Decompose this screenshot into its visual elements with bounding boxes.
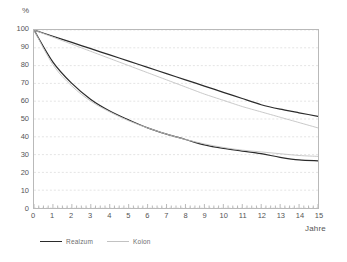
y-tick-label: 40 [7, 133, 29, 141]
x-tick-label: 9 [197, 212, 213, 220]
y-tick-label: 90 [7, 43, 29, 51]
plot-area [33, 29, 319, 209]
x-tick-marks [34, 204, 318, 208]
x-tick-label: 12 [254, 212, 270, 220]
x-tick-label: 15 [311, 212, 327, 220]
series-line-1 [34, 30, 318, 128]
y-tick-label: 10 [7, 187, 29, 195]
line-chart: % 0102030405060708090100 012345678910111… [0, 0, 347, 262]
gridlines [34, 30, 318, 208]
series-line-2 [34, 30, 318, 161]
legend-item[interactable]: Realzum [40, 238, 93, 245]
x-tick-label: 2 [63, 212, 79, 220]
y-tick-label: 50 [7, 115, 29, 123]
x-axis-title: Jahre [305, 224, 326, 233]
y-axis-title: % [22, 6, 29, 15]
x-tick-label: 6 [139, 212, 155, 220]
legend-swatch-icon [40, 241, 62, 242]
legend-label: Realzum [66, 238, 93, 245]
legend-item[interactable]: Koion [107, 238, 151, 245]
x-tick-label: 13 [273, 212, 289, 220]
series-lines [34, 30, 318, 161]
y-tick-label: 60 [7, 97, 29, 105]
x-tick-label: 10 [216, 212, 232, 220]
legend-label: Koion [133, 238, 151, 245]
x-tick-label: 0 [25, 212, 41, 220]
x-tick-label: 1 [44, 212, 60, 220]
y-tick-label: 100 [7, 25, 29, 33]
chart-legend: RealzumKoion [40, 238, 151, 245]
x-tick-label: 8 [178, 212, 194, 220]
x-tick-label: 7 [158, 212, 174, 220]
y-tick-label: 30 [7, 151, 29, 159]
series-line-0 [34, 30, 318, 116]
y-tick-label: 80 [7, 61, 29, 69]
y-tick-label: 20 [7, 169, 29, 177]
plot-svg [34, 30, 318, 208]
y-tick-label: 70 [7, 79, 29, 87]
x-tick-label: 14 [292, 212, 308, 220]
x-tick-label: 3 [82, 212, 98, 220]
legend-swatch-icon [107, 241, 129, 242]
x-tick-label: 4 [101, 212, 117, 220]
x-tick-label: 5 [120, 212, 136, 220]
x-tick-label: 11 [235, 212, 251, 220]
